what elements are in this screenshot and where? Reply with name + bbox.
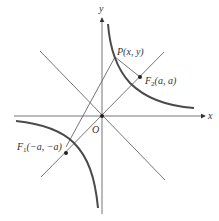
focus-f2-point (138, 75, 142, 79)
x-axis-label: x (207, 110, 213, 121)
hyperbola-diagram: y x O P(x, y) F2(a, a) F1(−a, −a) (0, 0, 219, 221)
point-p-label: P(x, y) (116, 46, 144, 58)
origin-point (100, 114, 104, 118)
hyperbola-branch-lower-left (16, 121, 98, 208)
focus-f1-point (64, 151, 68, 155)
focus-f1-label: F1(−a, −a) (16, 141, 62, 154)
origin-label: O (92, 124, 99, 135)
y-axis-label: y (98, 3, 104, 14)
segment-p-f1 (66, 57, 115, 147)
focus-f2-label: F2(a, a) (144, 75, 177, 88)
